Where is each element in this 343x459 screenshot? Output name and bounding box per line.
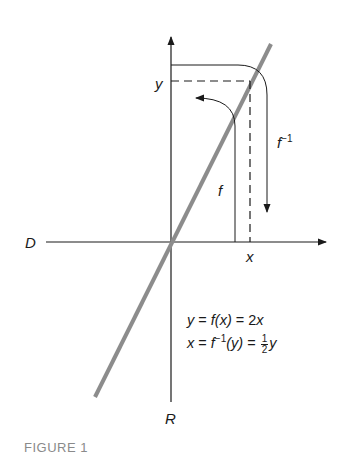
eq1-fx: f(x) <box>211 312 232 328</box>
eq1-rhs: x <box>256 312 263 328</box>
eq2-equals: = <box>194 335 211 351</box>
range-label: R <box>165 411 176 426</box>
f-inverse-exponent: −1 <box>281 133 292 144</box>
equation-inverse: x = f−1(y) = 12y <box>187 334 276 355</box>
f-arrow <box>196 98 235 242</box>
eq2-rhs: y <box>269 335 276 351</box>
domain-label: D <box>25 235 36 250</box>
f-inverse-label: f−1 <box>277 134 293 150</box>
figure-caption: FIGURE 1 <box>24 440 88 455</box>
one-half-fraction: 12 <box>261 334 269 355</box>
eq2-arg: (y) <box>226 335 243 351</box>
eq2-equals-2: = <box>243 335 260 351</box>
y-label: y <box>155 76 163 91</box>
x-label: x <box>246 249 254 264</box>
eq1-equals: = <box>194 312 211 328</box>
f-label: f <box>218 183 222 198</box>
equation-forward: y = f(x) = 2x <box>187 313 264 328</box>
eq2-exponent: −1 <box>215 333 226 344</box>
eq1-equals-2: = 2 <box>232 312 257 328</box>
function-diagram <box>0 0 343 459</box>
